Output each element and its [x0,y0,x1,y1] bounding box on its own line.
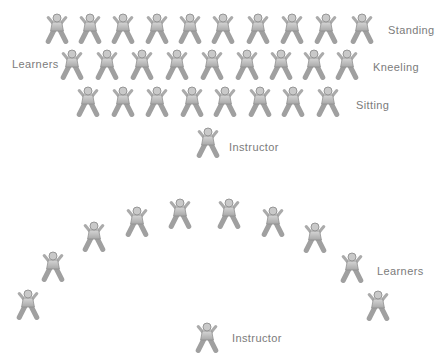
person-icon [312,13,340,46]
learners-label-bottom: Learners [377,265,424,277]
person-icon [233,49,261,82]
learner-figure [43,13,71,46]
learner-figure [215,198,243,231]
person-icon [278,13,306,46]
learner-figure [163,49,191,82]
learner-figure [123,206,151,239]
person-icon [300,49,328,82]
learner-figure [246,86,274,119]
person-icon [80,221,108,254]
learner-figure [211,86,239,119]
person-icon [364,290,392,323]
learner-figure [312,13,340,46]
learner-figure [143,86,171,119]
learner-figure [314,86,342,119]
learner-figure [364,290,392,323]
learner-figure [93,49,121,82]
learner-figure [58,49,86,82]
person-icon [215,198,243,231]
learner-figure [259,206,287,239]
person-icon [301,222,329,255]
instructor-label-top: Instructor [229,141,279,153]
person-icon [143,13,171,46]
person-icon [176,13,204,46]
person-icon [178,86,206,119]
learner-figure [244,13,272,46]
person-icon [76,13,104,46]
learner-figure [143,13,171,46]
standing-row-label: Standing [388,24,435,36]
person-icon [39,251,67,284]
person-icon [194,127,222,160]
person-icon [267,49,295,82]
learner-figure [178,86,206,119]
learner-figure [278,13,306,46]
person-icon [123,206,151,239]
learner-figure [14,289,42,322]
person-icon [58,49,86,82]
learner-figure [279,86,307,119]
kneeling-row-label: Kneeling [373,61,419,73]
class-formation-diagram: Learners Standing Kneeling Sitting Instr… [0,0,442,359]
learner-figure [338,252,366,285]
learner-figure [301,222,329,255]
person-icon [209,13,237,46]
person-icon [279,86,307,119]
learners-label-top: Learners [12,58,59,70]
learner-figure [267,49,295,82]
learner-figure [76,13,104,46]
person-icon [244,13,272,46]
learner-figure [128,49,156,82]
person-icon [333,49,361,82]
person-icon [259,206,287,239]
person-icon [109,13,137,46]
person-icon [109,86,137,119]
learner-figure [80,221,108,254]
learner-figure [233,49,261,82]
person-icon [211,86,239,119]
learner-figure [74,86,102,119]
instructor-label-bottom: Instructor [232,332,282,344]
learner-figure [109,86,137,119]
learner-figure [166,198,194,231]
instructor-figure [194,127,222,160]
person-icon [198,49,226,82]
person-icon [314,86,342,119]
learner-figure [39,251,67,284]
learner-figure [176,13,204,46]
person-icon [143,86,171,119]
person-icon [163,49,191,82]
person-icon [93,49,121,82]
person-icon [74,86,102,119]
learner-figure [300,49,328,82]
person-icon [348,13,376,46]
person-icon [246,86,274,119]
learner-figure [333,49,361,82]
learner-figure [348,13,376,46]
instructor-figure [193,322,221,355]
person-icon [128,49,156,82]
learner-figure [198,49,226,82]
learner-figure [209,13,237,46]
person-icon [166,198,194,231]
learner-figure [109,13,137,46]
person-icon [338,252,366,285]
sitting-row-label: Sitting [356,99,389,111]
person-icon [193,322,221,355]
person-icon [14,289,42,322]
person-icon [43,13,71,46]
